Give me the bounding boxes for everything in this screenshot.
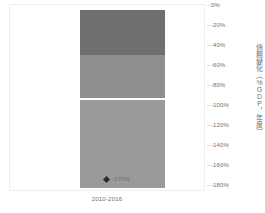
y-tick-label-100: -100% <box>211 102 229 108</box>
y-tick-mark <box>207 145 210 146</box>
y-tick-label-60: -60% <box>211 62 225 68</box>
y-axis: 0% -20% -40% -60% -80% -100% -120% -140%… <box>207 0 239 213</box>
y-tick-label-180: -180% <box>211 182 229 188</box>
total-value-text: -170% <box>112 176 130 182</box>
y-tick-label-40: -40% <box>211 42 225 48</box>
y-tick-mark <box>207 105 210 106</box>
bar-segment-1[interactable] <box>80 10 165 55</box>
y-tick-label-0: 0% <box>211 2 220 8</box>
stacked-bar-2010-2016[interactable] <box>80 10 165 188</box>
y-tick-label-80: -80% <box>211 82 225 88</box>
plot-area <box>9 4 205 191</box>
y-tick-label-160: -160% <box>211 162 229 168</box>
chart-container: -170% 0% -20% -40% -60% -80% -100% -120%… <box>0 0 265 213</box>
y-tick-label-20: -20% <box>211 22 225 28</box>
y-tick-mark <box>207 45 210 46</box>
y-tick-label-120: -120% <box>211 122 229 128</box>
y-tick-mark <box>207 5 210 6</box>
x-axis-label: 2010-2016 <box>9 196 205 202</box>
y-tick-mark <box>207 85 210 86</box>
y-tick-mark <box>207 165 210 166</box>
y-tick-mark <box>207 25 210 26</box>
bar-segment-3[interactable] <box>80 100 165 188</box>
y-tick-mark <box>207 185 210 186</box>
bar-segment-2[interactable] <box>80 55 165 98</box>
diamond-marker-icon <box>103 175 110 182</box>
total-data-label: -170% <box>104 176 130 182</box>
y-tick-label-140: -140% <box>211 142 229 148</box>
y-tick-mark <box>207 125 210 126</box>
y-tick-mark <box>207 65 210 66</box>
y-axis-title: 債務變化（%GDP，年度） <box>252 44 264 135</box>
